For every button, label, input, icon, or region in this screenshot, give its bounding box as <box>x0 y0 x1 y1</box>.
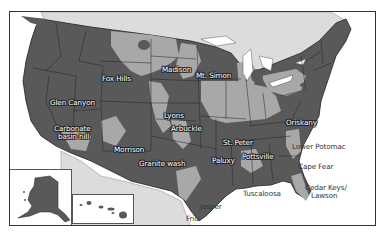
label-oriskany: Oriskany <box>286 119 317 127</box>
hawaii-map <box>73 195 133 223</box>
label-lawson: Lawson <box>311 192 337 200</box>
label-granite-wash: Granite wash <box>139 160 185 168</box>
label-basin-hill: basin hill <box>58 133 89 141</box>
label-lyons: Lyons <box>164 112 184 120</box>
label-tuscaloosa: Tuscaloosa <box>243 190 281 198</box>
label-jasper: Jasper <box>200 203 222 211</box>
aquifer-map: Fox Hills Madison Mt. Simon Glen Canyon … <box>9 11 376 226</box>
label-st-peter: St. Peter <box>223 139 253 147</box>
label-fox-hills: Fox Hills <box>102 75 131 83</box>
label-frio: Frio <box>186 215 199 223</box>
label-glen-canyon: Glen Canyon <box>50 99 95 107</box>
label-morrison: Morrison <box>114 146 144 154</box>
label-cape-fear: Cape Fear <box>298 163 333 171</box>
alaska-map <box>10 170 71 226</box>
label-paluxy: Paluxy <box>212 157 235 165</box>
label-mt-simon: Mt. Simon <box>196 72 231 80</box>
label-madison: Madison <box>162 66 191 74</box>
hawaii-inset <box>72 194 134 224</box>
label-arbuckle: Arbuckle <box>171 125 202 133</box>
label-pottsville: Pottsville <box>242 153 274 161</box>
label-lower-potomac: Lower Potomac <box>292 143 346 151</box>
alaska-inset <box>9 169 72 226</box>
